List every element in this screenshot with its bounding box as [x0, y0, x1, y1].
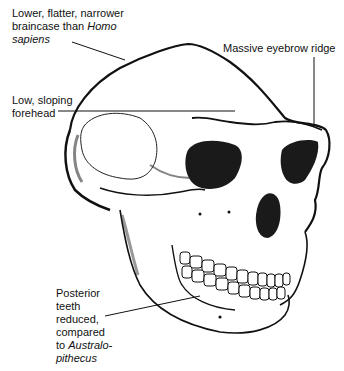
teeth-label: Posterior teeth reduced, compared to Aus… [56, 287, 112, 365]
left-eye-socket [185, 141, 241, 189]
braincase-label: Lower, flatter, narrower braincase than … [12, 7, 124, 46]
skull-illustration [0, 0, 344, 371]
eyebrow-label: Massive eyebrow ridge [223, 42, 336, 55]
cranium-outline [70, 44, 329, 232]
temporal-fossa [81, 113, 157, 179]
brow-ridge [192, 117, 322, 130]
temporal-region [65, 130, 110, 210]
nasal-cavity [256, 193, 281, 238]
teeth-leader-line [105, 296, 200, 316]
right-eye-socket [281, 140, 319, 184]
forehead-label: Low, sloping forehead [12, 94, 73, 120]
zygomatic-arch [100, 188, 205, 195]
